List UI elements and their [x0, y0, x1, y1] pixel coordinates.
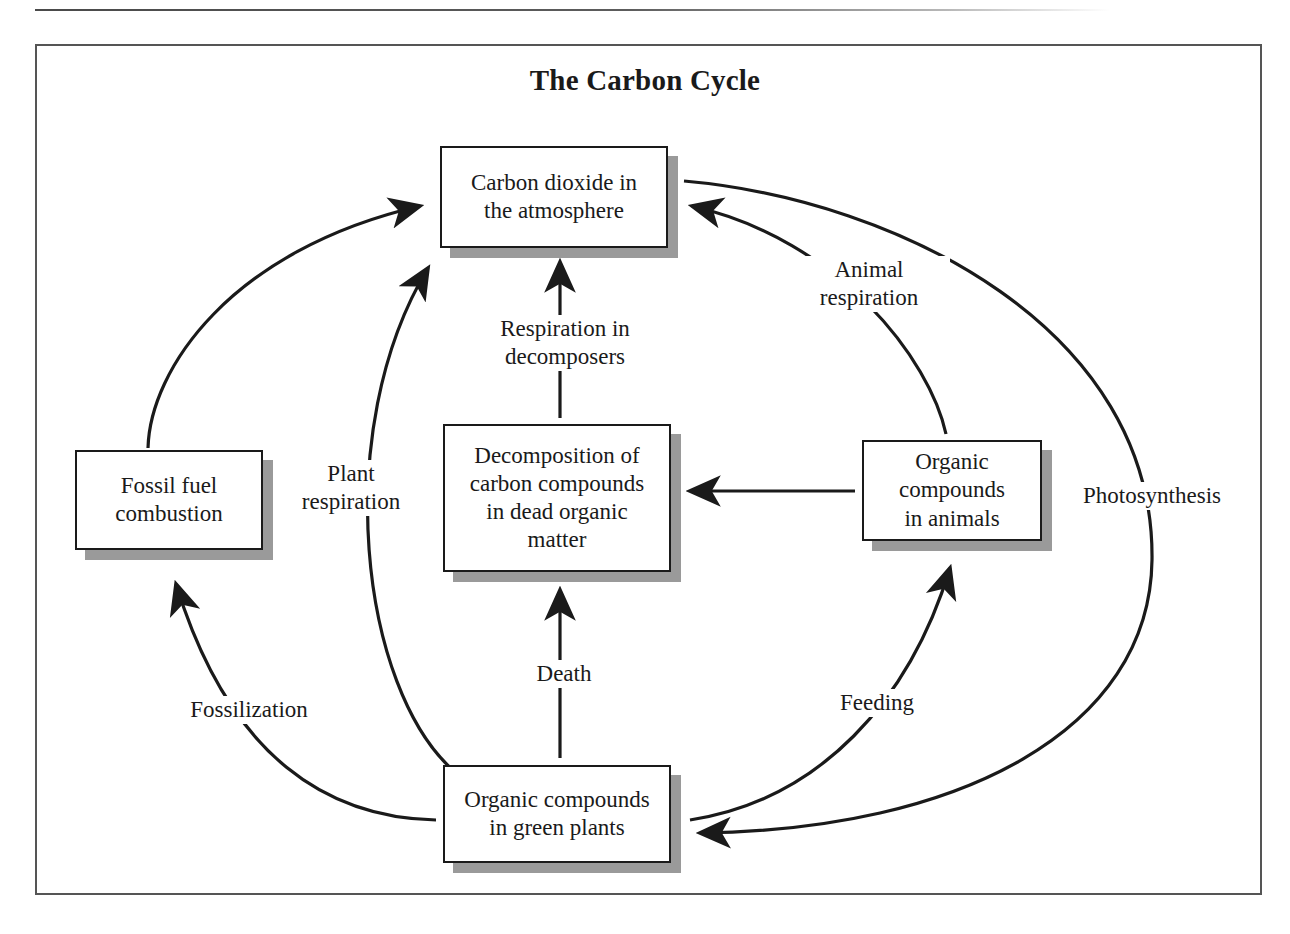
- node-decomposition-dead-organic-matter[interactable]: Decomposition of carbon compounds in dea…: [443, 424, 671, 572]
- edge-label-feeding: Feeding: [821, 689, 933, 717]
- node-organic-compounds-green-plants[interactable]: Organic compounds in green plants: [443, 765, 671, 863]
- edge-label-plant-respiration: Plant respiration: [283, 460, 419, 516]
- edge-plants-to-co2-plant-respiration: [368, 268, 455, 772]
- edge-label-photosynthesis: Photosynthesis: [1063, 482, 1241, 510]
- edge-label-animal-respiration: Animal respiration: [788, 256, 950, 312]
- edge-label-death: Death: [516, 660, 612, 688]
- edge-label-fossilization: Fossilization: [171, 696, 327, 724]
- edge-fossilfuel-to-co2: [148, 206, 420, 448]
- edge-label-respiration-in-decomposers: Respiration in decomposers: [452, 315, 678, 371]
- node-carbon-dioxide-atmosphere[interactable]: Carbon dioxide in the atmosphere: [440, 146, 668, 248]
- carbon-cycle-figure: The Carbon Cycle Carbon dioxide in the a…: [0, 0, 1290, 934]
- node-organic-compounds-animals[interactable]: Organic compounds in animals: [862, 440, 1042, 541]
- node-fossil-fuel-combustion[interactable]: Fossil fuel combustion: [75, 450, 263, 550]
